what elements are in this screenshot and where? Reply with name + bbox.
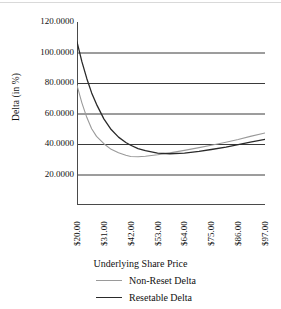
x-tick-label: $97.00 [261, 209, 270, 259]
gridlines [77, 53, 265, 175]
chart-figure: Delta (in %) 120.0000100.000080.000060.0… [0, 0, 281, 309]
legend-line-swatch [96, 297, 122, 298]
plot-area [77, 22, 265, 205]
x-tick-label: $53.00 [153, 209, 162, 259]
x-tick-label: $42.00 [126, 209, 135, 259]
y-tick-label: 60.0000 [24, 109, 74, 118]
y-tick-label: 20.0000 [24, 170, 74, 179]
x-axis-title: Underlying Share Price [0, 258, 281, 269]
x-tick-label: $20.00 [73, 209, 82, 259]
series-line-resetable-delta [77, 42, 265, 154]
x-tick-label: $31.00 [99, 209, 108, 259]
chart-legend: Non-Reset DeltaResetable Delta [0, 272, 281, 306]
legend-line-swatch [96, 280, 122, 281]
y-tick-label: 120.0000 [24, 17, 74, 26]
legend-item: Non-Reset Delta [0, 272, 281, 289]
x-tick-label: $86.00 [234, 209, 243, 259]
legend-label: Non-Reset Delta [129, 275, 196, 286]
x-tick-label: $75.00 [207, 209, 216, 259]
y-axis-title: Delta (in %) [11, 57, 21, 137]
x-tick-label: $64.00 [180, 209, 189, 259]
data-series [77, 42, 265, 157]
y-tick-label: 100.0000 [24, 48, 74, 57]
y-tick-label: 40.0000 [24, 139, 74, 148]
legend-label: Resetable Delta [129, 292, 192, 303]
legend-item: Resetable Delta [0, 289, 281, 306]
y-tick-label: 80.0000 [24, 78, 74, 87]
x-axis-tick-labels: $20.00$31.00$42.00$53.00$64.00$75.00$86.… [77, 207, 265, 259]
